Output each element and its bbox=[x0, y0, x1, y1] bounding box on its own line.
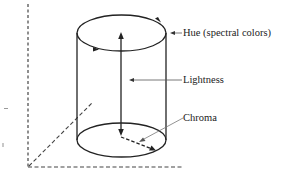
color-cylinder-diagram: Hue (spectral colors) Lightness Chroma bbox=[0, 0, 283, 177]
hue-label: Hue (spectral colors) bbox=[183, 28, 271, 39]
lightness-label: Lightness bbox=[183, 75, 224, 86]
left-edge-mark-2 bbox=[2, 143, 4, 147]
lightness-arrow-up-icon bbox=[118, 32, 124, 39]
hue-leader-arrow-icon bbox=[170, 31, 175, 35]
left-edge-mark bbox=[4, 108, 8, 109]
lightness-leader-arrow-icon bbox=[129, 78, 134, 82]
lightness-axis bbox=[118, 32, 124, 136]
chroma-label: Chroma bbox=[183, 113, 217, 124]
